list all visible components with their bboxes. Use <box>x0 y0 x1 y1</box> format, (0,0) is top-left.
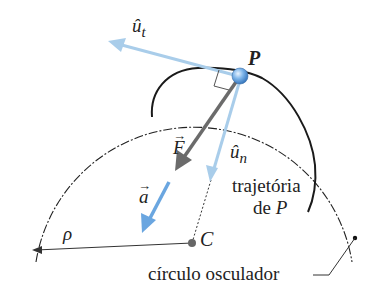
unit-tangent-arrowhead <box>108 38 126 52</box>
label-unit-normal: ûn <box>230 141 247 166</box>
label-unit-tangent: ût <box>132 15 147 40</box>
unit-tangent-arrow <box>118 44 238 76</box>
center-point <box>188 239 196 247</box>
label-force: F <box>172 137 185 158</box>
label-center: C <box>200 228 214 250</box>
acceleration-arrowhead <box>141 213 156 233</box>
osculating-circle-diagram: ût P → F ûn → a ρ C trajetória de P círc… <box>0 0 383 298</box>
unit-normal-arrowhead <box>206 165 218 182</box>
acceleration-arrow <box>148 182 169 222</box>
osculating-leader-line <box>313 238 355 275</box>
point-p <box>232 68 248 84</box>
radius-arrowhead <box>32 246 42 254</box>
radius-line <box>36 243 192 250</box>
label-acceleration: a <box>139 186 149 207</box>
label-radius: ρ <box>62 223 72 244</box>
label-point-p: P <box>247 47 261 69</box>
label-osculating-circle: círculo osculador <box>148 263 280 284</box>
label-trajectory-line1: trajetória <box>232 175 301 196</box>
label-trajectory-line2: de P <box>253 197 288 218</box>
